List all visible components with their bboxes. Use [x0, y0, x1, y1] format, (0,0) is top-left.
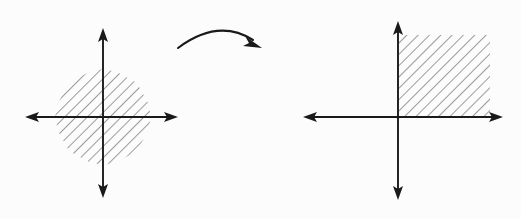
right-origin-point — [396, 115, 399, 118]
left-origin-point — [102, 116, 104, 118]
hatched-region-image — [395, 31, 495, 123]
diagram-canvas: Region transformation under mapping Coor… — [0, 0, 521, 218]
diagram-svg — [0, 0, 521, 218]
